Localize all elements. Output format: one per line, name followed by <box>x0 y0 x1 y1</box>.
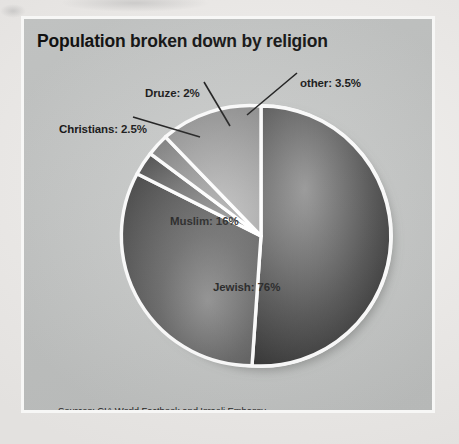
pie-slice-jewish[interactable] <box>252 106 391 366</box>
chart-panel: Population broken down by religion <box>21 16 435 413</box>
slice-label-druze: Druze: 2% <box>145 87 200 99</box>
slice-label-jewish: Jewish: 76% <box>213 281 280 293</box>
slice-label-christians: Christians: 2.5% <box>59 123 147 135</box>
scan-artifact <box>60 0 210 12</box>
source-note: Sources: CIA World Factbook and Israeli … <box>58 405 266 413</box>
slice-label-muslim: Muslim: 16% <box>170 215 239 227</box>
slice-label-other: other: 3.5% <box>300 77 361 89</box>
chart-page: Population broken down by religion <box>0 0 459 444</box>
